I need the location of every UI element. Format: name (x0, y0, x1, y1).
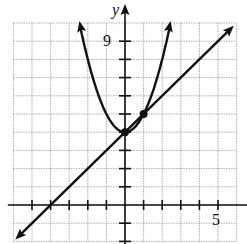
graph (0, 0, 247, 244)
y-tick-label-9: 9 (103, 33, 111, 49)
axes (8, 8, 247, 244)
x-tick-label-5: 5 (212, 212, 220, 228)
y-axis-label: y (112, 2, 119, 18)
